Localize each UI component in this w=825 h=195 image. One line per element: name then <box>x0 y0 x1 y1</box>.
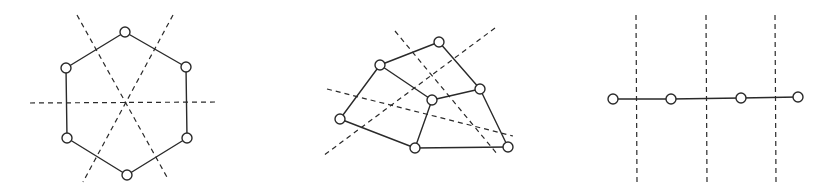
graph-node-circle <box>608 94 618 104</box>
graph-edge <box>66 32 125 68</box>
symmetry-axis-dashed-line <box>30 102 216 103</box>
graph-node-circle <box>736 93 746 103</box>
graph-edge <box>671 98 741 99</box>
graph-edge <box>340 65 380 119</box>
graph-edge <box>67 138 127 175</box>
graph-node-circle <box>503 142 513 152</box>
graph-edge <box>741 97 798 98</box>
graph-node-circle <box>62 133 72 143</box>
irregular-graph <box>323 28 513 156</box>
graph-edge <box>66 68 67 138</box>
graph-edge <box>340 119 415 148</box>
graph-node-circle <box>410 143 420 153</box>
graph-edge <box>439 42 480 89</box>
graph-node-circle <box>182 133 192 143</box>
diagram-canvas <box>0 0 825 195</box>
graph-edge <box>380 42 439 65</box>
symmetry-axis-dashed-line <box>775 15 776 182</box>
graph-node-circle <box>61 63 71 73</box>
graph-node-circle <box>375 60 385 70</box>
graph-node-circle <box>335 114 345 124</box>
graph-edge <box>415 100 432 148</box>
graph-node-circle <box>427 95 437 105</box>
graph-node-circle <box>666 94 676 104</box>
symmetry-axis-dashed-line <box>77 15 168 179</box>
graph-edge <box>127 138 187 175</box>
hexagon-graph <box>30 15 216 182</box>
symmetry-axis-dashed-line <box>327 89 513 136</box>
graph-node-circle <box>120 27 130 37</box>
graph-edge <box>125 32 186 67</box>
graph-node-circle <box>434 37 444 47</box>
graph-node-circle <box>793 92 803 102</box>
graph-edge <box>415 147 508 148</box>
graph-node-circle <box>181 62 191 72</box>
graph-edge <box>186 67 187 138</box>
path-graph <box>608 15 803 182</box>
graph-node-circle <box>475 84 485 94</box>
graph-node-circle <box>122 170 132 180</box>
graph-edge <box>432 89 480 100</box>
